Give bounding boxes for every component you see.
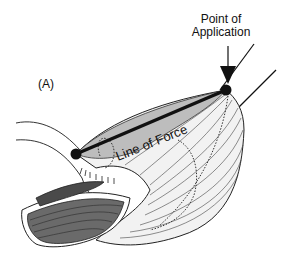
- insertion-point: [221, 85, 232, 96]
- origin-point: [71, 149, 82, 160]
- arrow-head-icon: [220, 66, 236, 84]
- panel-label: (A): [38, 78, 54, 91]
- point-of-application-line2: Application: [186, 26, 256, 39]
- point-of-application-label: Point of Application: [186, 13, 256, 39]
- tendon-line-2: [238, 70, 276, 108]
- muscle-diagram: Line of Force: [0, 0, 294, 261]
